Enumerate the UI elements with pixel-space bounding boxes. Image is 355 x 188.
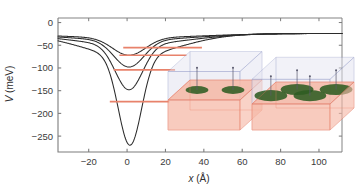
y-tick-label-0: 0 [48,17,53,28]
dot-pin-head-1 [296,69,298,71]
y-tick-label-5: −250 [32,131,53,142]
y-tick-label-3: −150 [32,85,53,96]
y-axis-title-unit: (meV) [4,66,15,96]
figure-canvas: −20020406080100 0−50−100−150−200−250 x (… [0,0,355,188]
x-tick-label-4: 60 [237,156,248,167]
dot-pin-head-0 [270,75,272,77]
y-tick-label-2: −100 [32,62,53,73]
potential-well-figure: −20020406080100 0−50−100−150−200−250 x (… [0,0,355,188]
x-tick-label-3: 40 [199,156,210,167]
inset-right-four-dots [252,57,354,130]
x-tick-label-0: −20 [81,156,97,167]
x-tick-label-5: 80 [275,156,286,167]
y-tick-label-1: −50 [37,40,53,51]
x-axis-title: x (Å) [187,172,209,184]
dot-pin-head-3 [335,69,337,71]
x-tick-label-2: 20 [160,156,171,167]
y-axis-title: V (meV) [4,66,15,103]
dot-pin-head-2 [309,75,311,77]
inset-lower-front-face [168,100,240,130]
x-axis-title-unit: (Å) [193,172,209,184]
dot-pin-head-0 [196,67,198,69]
y-tick-label-4: −200 [32,108,53,119]
x-tick-label-6: 100 [311,156,327,167]
x-tick-label-1: 0 [124,156,129,167]
inset-left-two-dots [168,52,262,131]
dot-pin-head-1 [232,67,234,69]
